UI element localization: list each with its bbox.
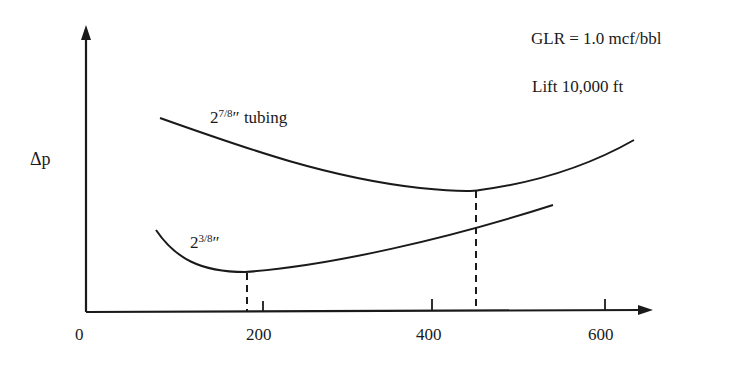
y-axis-label: Δp [30,150,51,168]
series-label-2-7-8-tubing: 27/8″ tubing [210,108,287,126]
annotation-lift: Lift 10,000 ft [532,78,623,95]
chart-canvas [0,0,747,365]
x-tick-label-200: 200 [246,326,272,343]
x-tick-label-0: 0 [75,326,84,343]
y-axis-arrow-icon [81,25,91,40]
annotation-glr: GLR = 1.0 mcf/bbl [531,30,661,47]
series-label-2-3-8: 23/8″ [190,233,220,251]
x-axis [86,310,642,312]
series-2-7-8-tubing-curve [160,118,634,191]
x-axis-arrow-icon [638,305,653,315]
x-tick-label-600: 600 [588,326,614,343]
x-tick-label-400: 400 [416,326,442,343]
